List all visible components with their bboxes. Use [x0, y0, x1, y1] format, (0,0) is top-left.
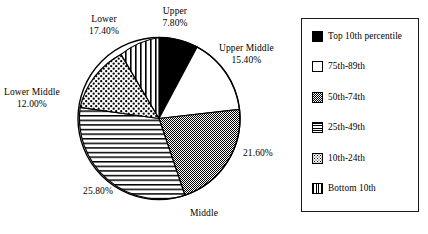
legend-item-50th-74th[interactable]: 50th-74th [312, 91, 416, 104]
legend-item-25th-49th[interactable]: 25th-49th [312, 121, 416, 134]
legend-swatch-horizontal-lines-icon [312, 122, 323, 133]
slice-label-upper-middle: Upper Middle 15.40% [219, 43, 274, 66]
pie-chart-figure: Upper 7.80% Upper Middle 15.40% 21.60% 2… [0, 0, 428, 234]
slice-label-middle-upper: 21.60% [243, 148, 273, 160]
legend-item-label: Top 10th percentile [328, 31, 402, 42]
legend-item-label: 10th-24th [328, 153, 365, 164]
slice-label-upper-name: Upper [162, 6, 187, 18]
slice-label-upper: Upper 7.80% [162, 6, 187, 29]
legend-item-top-10th[interactable]: Top 10th percentile [312, 30, 416, 43]
slice-label-lower-name: Lower [89, 14, 119, 26]
slice-label-lower-middle-name: Lower Middle [4, 87, 60, 99]
slice-label-upper-middle-pct: 15.40% [219, 55, 274, 67]
slice-label-middle-pct: 25.80% [83, 186, 113, 198]
slice-label-upper-pct: 7.80% [162, 18, 187, 30]
legend-item-75th-89th[interactable]: 75th-89th [312, 60, 416, 73]
slice-label-middle-lower-name: Middle [190, 208, 218, 220]
slice-label-lower: Lower 17.40% [89, 14, 119, 37]
pie-svg [0, 0, 290, 234]
legend-swatch-dots-icon [312, 153, 323, 164]
legend: Top 10th percentile 75th-89th 50th-74th … [301, 18, 419, 212]
slice-label-middle-lower-pct: 25.80% [83, 186, 113, 198]
legend-item-label: 25th-49th [328, 122, 365, 133]
legend-item-10th-24th[interactable]: 10th-24th [312, 152, 416, 165]
slice-label-middle-name: Middle [190, 208, 218, 220]
legend-item-bottom-10th[interactable]: Bottom 10th [312, 182, 416, 195]
slice-label-lower-pct: 17.40% [89, 26, 119, 38]
slice-label-middle-upper-pct: 21.60% [243, 148, 273, 160]
legend-swatch-vertical-lines-icon [312, 183, 323, 194]
legend-swatch-white-icon [312, 61, 323, 72]
slice-label-lower-middle-pct: 12.00% [4, 99, 60, 111]
legend-item-label: 75th-89th [328, 61, 365, 72]
legend-swatch-solid-black-icon [312, 31, 323, 42]
slice-label-lower-middle: Lower Middle 12.00% [4, 87, 60, 110]
legend-item-label: Bottom 10th [328, 183, 376, 194]
legend-list: Top 10th percentile 75th-89th 50th-74th … [312, 30, 416, 212]
pie-plot-area: Upper 7.80% Upper Middle 15.40% 21.60% 2… [0, 0, 290, 234]
legend-swatch-checker-icon [312, 92, 323, 103]
slice-label-upper-middle-name: Upper Middle [219, 43, 274, 55]
legend-item-label: 50th-74th [328, 92, 365, 103]
